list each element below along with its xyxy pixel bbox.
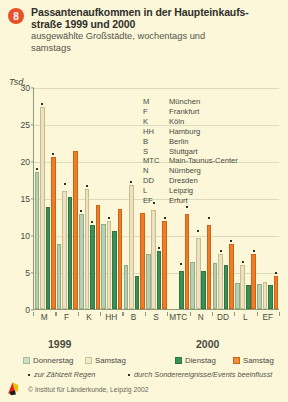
- city-key-name: Stuttgart: [169, 147, 198, 157]
- marker-dot-icon: [220, 250, 222, 252]
- y-axis-tick-label: 0: [25, 305, 30, 315]
- bar-l-samstag-1999: [240, 265, 245, 309]
- city-key-name: Köln: [169, 117, 184, 127]
- y-axis-tick-label: 30: [20, 83, 30, 93]
- marker-dot-icon: [186, 206, 188, 208]
- marker-dot-icon: [91, 221, 93, 223]
- city-key-abbr: F: [143, 107, 169, 117]
- bar-group-m: [34, 88, 56, 309]
- bar-ef-samstag-1999: [263, 282, 268, 309]
- y-axis-tick-mark: [31, 309, 34, 310]
- marker-dot-icon: [41, 103, 43, 105]
- city-key-row-k: KKöln: [143, 117, 238, 127]
- bar-n-dienstag: [201, 271, 206, 309]
- bar-n-samstag-2000: [207, 225, 212, 309]
- x-axis-tick-mark: [167, 312, 168, 316]
- y-axis-tick-label: 10: [20, 231, 30, 241]
- city-key-row-ef: EFErfurt: [143, 196, 238, 206]
- bar-group-b: [123, 88, 145, 309]
- bar-m-samstag-1999: [40, 107, 45, 309]
- x-axis-label-l: L: [234, 312, 256, 322]
- x-axis-label-m: M: [33, 312, 55, 322]
- y-axis-tick-label: 15: [20, 194, 30, 204]
- y-axis-tick-label: 5: [25, 268, 30, 278]
- bar-f-dienstag: [68, 197, 73, 309]
- x-axis-tick-mark: [234, 312, 235, 316]
- footnote-regen: zur Zählzeit Regen: [28, 370, 95, 379]
- figure-number-badge: 8: [8, 8, 24, 24]
- bar-s-donnerstag: [146, 254, 151, 309]
- x-axis-label-b: B: [122, 312, 144, 322]
- x-axis-tick-mark: [122, 312, 123, 316]
- y-axis-tick-label: 25: [20, 120, 30, 130]
- bar-group-f: [56, 88, 78, 309]
- bar-m-donnerstag: [35, 172, 40, 309]
- bar-f-samstag-2000: [73, 151, 78, 309]
- city-key-abbr: DD: [143, 176, 169, 186]
- bar-ef-donnerstag: [257, 284, 262, 309]
- bar-b-dienstag: [135, 276, 140, 309]
- city-key-row-mtc: MTCMain-Taunus-Center: [143, 156, 238, 166]
- source-credit: © Institut für Länderkunde, Leipzig 2002: [28, 386, 149, 393]
- year-caption-1999: 1999: [48, 338, 71, 350]
- marker-dot-icon: [64, 183, 66, 185]
- city-key-name: München: [169, 97, 200, 107]
- city-abbreviation-key: MMünchenFFrankfurtKKölnHHHamburgBBerlinS…: [143, 97, 238, 206]
- marker-dot-icon: [130, 181, 132, 183]
- infographic-page: 8 Passantenaufkommen in der Haupteinkauf…: [0, 0, 288, 402]
- institute-logo-icon: [6, 380, 24, 397]
- x-axis-tick-mark: [257, 312, 258, 316]
- bar-hh-samstag-2000: [118, 209, 123, 309]
- x-axis-tick-mark: [33, 312, 34, 316]
- bar-m-dienstag: [46, 207, 51, 309]
- marker-dot-icon: [230, 240, 232, 242]
- bar-b-samstag-2000: [140, 213, 145, 309]
- city-key-abbr: MTC: [143, 156, 169, 166]
- bar-k-dienstag: [90, 225, 95, 309]
- footnote-events: durch Sonderereignisse/Events beeinfluss…: [128, 370, 272, 379]
- city-key-row-hh: HHHamburg: [143, 127, 238, 137]
- bar-k-samstag-1999: [85, 189, 90, 309]
- title-block: Passantenaufkommen in der Haupteinkaufs-…: [31, 7, 249, 54]
- x-axis-tick-mark: [78, 312, 79, 316]
- legend-item-samstag-2000: Samstag: [233, 356, 274, 365]
- marker-dot-icon: [36, 168, 38, 170]
- city-key-row-m: MMünchen: [143, 97, 238, 107]
- city-key-abbr: N: [143, 166, 169, 176]
- x-axis-label-f: F: [55, 312, 77, 322]
- legend-label-donnerstag: Donnerstag: [33, 356, 73, 365]
- city-key-row-f: FFrankfurt: [143, 107, 238, 117]
- bar-n-donnerstag: [190, 262, 195, 309]
- bar-k-donnerstag: [79, 214, 84, 309]
- marker-dot-icon: [242, 261, 244, 263]
- city-key-name: Frankfurt: [169, 107, 199, 117]
- footnote-events-label: durch Sonderereignisse/Events beeinfluss…: [134, 370, 272, 379]
- swatch-samstag-1999-icon: [85, 357, 92, 364]
- x-axis-tick-mark: [212, 312, 213, 316]
- swatch-dienstag-icon: [175, 357, 182, 364]
- swatch-samstag-2000-icon: [233, 357, 240, 364]
- marker-dot-icon: [158, 247, 160, 249]
- city-key-abbr: EF: [143, 196, 169, 206]
- year-caption-2000: 2000: [196, 338, 219, 350]
- bar-k-samstag-2000: [96, 205, 101, 309]
- city-key-name: Hamburg: [169, 127, 200, 137]
- legend-item-donnerstag-1999: Donnerstag: [23, 356, 73, 365]
- page-subtitle-line2: samstags: [31, 43, 249, 54]
- city-key-row-l: LLeipzig: [143, 186, 238, 196]
- marker-dot-icon: [197, 230, 199, 232]
- bar-s-dienstag: [157, 251, 162, 309]
- x-axis-tick-mark: [55, 312, 56, 316]
- city-key-row-dd: DDDresden: [143, 176, 238, 186]
- footnote-regen-label: zur Zählzeit Regen: [34, 370, 95, 379]
- bar-group-ef: [257, 88, 279, 309]
- x-axis-tick-mark: [100, 312, 101, 316]
- header: 8 Passantenaufkommen in der Haupteinkauf…: [0, 0, 288, 54]
- city-key-row-n: NNürnberg: [143, 166, 238, 176]
- city-key-abbr: K: [143, 117, 169, 127]
- bar-s-samstag-1999: [151, 210, 156, 309]
- city-key-abbr: B: [143, 137, 169, 147]
- bar-s-samstag-2000: [162, 221, 167, 309]
- x-axis-labels: MFKHHBSMTCNDDLEF: [33, 312, 279, 322]
- legend-item-dienstag-2000: Dienstag: [175, 356, 216, 365]
